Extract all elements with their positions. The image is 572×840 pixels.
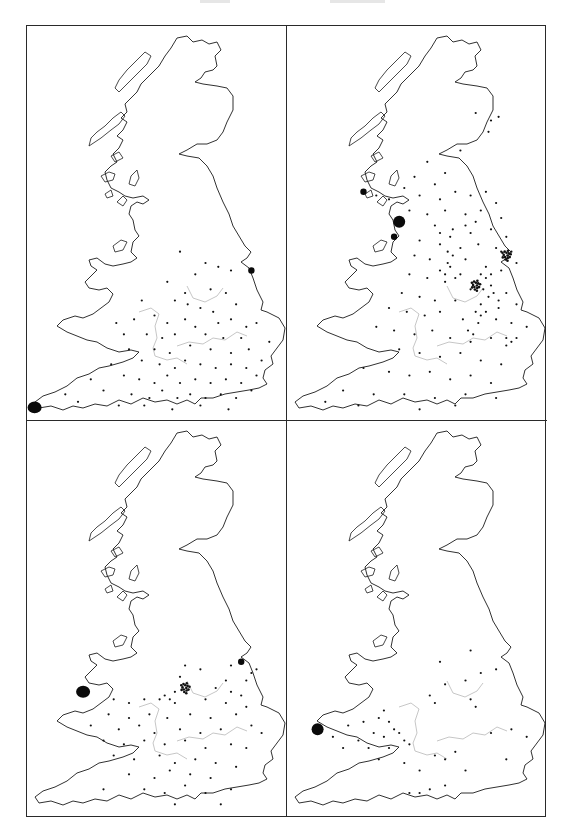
island-outline <box>117 196 127 206</box>
record-dot <box>362 721 364 723</box>
record-dot <box>505 337 507 339</box>
record-dot <box>138 378 140 380</box>
island-outline <box>105 190 113 198</box>
large-dot-symbol <box>238 659 244 665</box>
record-dot <box>123 743 125 745</box>
record-dot <box>184 359 186 361</box>
record-dot <box>222 337 224 339</box>
record-dot <box>388 721 390 723</box>
record-dot <box>505 292 507 294</box>
record-dot <box>413 254 415 256</box>
record-dot <box>485 311 487 313</box>
record-dot <box>495 247 497 249</box>
cluster-dot <box>478 286 481 289</box>
record-dot <box>143 739 145 741</box>
record-dot <box>449 266 451 268</box>
record-dot <box>490 382 492 384</box>
island-outline <box>389 170 399 186</box>
record-dot <box>220 728 222 730</box>
record-dot <box>408 374 410 376</box>
record-dot <box>215 687 217 689</box>
record-dot <box>245 326 247 328</box>
record-dot <box>115 322 117 324</box>
record-dot <box>189 344 191 346</box>
record-dot <box>204 397 206 399</box>
cluster-dot <box>501 251 504 254</box>
record-dot <box>459 273 461 275</box>
record-dot <box>362 367 364 369</box>
record-dot <box>439 661 441 663</box>
large-blob-symbol <box>28 401 42 413</box>
cluster-dot <box>186 682 189 685</box>
record-dot <box>510 341 512 343</box>
region-boundary <box>415 751 447 759</box>
record-dot <box>141 359 143 361</box>
record-dot <box>230 269 232 271</box>
record-dot <box>255 668 257 670</box>
record-dot <box>490 273 492 275</box>
record-dot <box>143 404 145 406</box>
record-dot <box>480 314 482 316</box>
record-dot <box>470 698 472 700</box>
record-dot <box>199 307 201 309</box>
record-dot <box>261 359 263 361</box>
region-boundary <box>155 356 187 364</box>
region-boundary <box>437 332 507 346</box>
record-dot <box>393 728 395 730</box>
record-dot <box>153 382 155 384</box>
record-dot <box>174 691 176 693</box>
record-dot <box>373 393 375 395</box>
record-dot <box>408 792 410 794</box>
island-outline <box>349 112 385 146</box>
record-dot <box>179 676 181 678</box>
cluster-dot <box>506 259 509 262</box>
record-dot <box>408 209 410 211</box>
record-dot <box>464 213 466 215</box>
record-dot <box>403 393 405 395</box>
record-dot <box>199 404 201 406</box>
record-dot <box>90 378 92 380</box>
record-dot <box>184 318 186 320</box>
record-dot <box>235 766 237 768</box>
record-dot <box>174 803 176 805</box>
record-dot <box>210 777 212 779</box>
record-dot <box>153 777 155 779</box>
scan-artifact <box>200 0 230 3</box>
record-dot <box>179 382 181 384</box>
record-dot <box>470 194 472 196</box>
record-dot <box>403 762 405 764</box>
record-dot <box>444 281 446 283</box>
record-dot <box>164 743 166 745</box>
record-dot <box>505 236 507 238</box>
cluster-dot <box>502 254 505 257</box>
large-dot-symbol <box>393 216 405 228</box>
record-dot <box>470 374 472 376</box>
island-outline <box>113 635 127 647</box>
record-dot <box>439 311 441 313</box>
record-dot <box>403 187 405 189</box>
record-dot <box>475 706 477 708</box>
record-dot <box>123 374 125 376</box>
record-dot <box>480 209 482 211</box>
record-dot <box>449 236 451 238</box>
record-dot <box>447 262 449 264</box>
record-dot <box>255 322 257 324</box>
record-dot <box>217 266 219 268</box>
record-dot <box>424 314 426 316</box>
record-dot <box>166 281 168 283</box>
record-dot <box>378 758 380 760</box>
region-boundary <box>399 308 419 356</box>
record-dot <box>419 296 421 298</box>
record-dot <box>464 393 466 395</box>
record-dot <box>161 389 163 391</box>
cluster-dot <box>471 286 474 289</box>
record-dot <box>495 668 497 670</box>
record-dot <box>444 758 446 760</box>
record-dot <box>210 348 212 350</box>
record-dot <box>439 232 441 234</box>
record-dot <box>174 762 176 764</box>
record-dot <box>464 224 466 226</box>
island-outline <box>371 152 383 162</box>
island-outline <box>361 172 375 182</box>
record-dot <box>500 269 502 271</box>
